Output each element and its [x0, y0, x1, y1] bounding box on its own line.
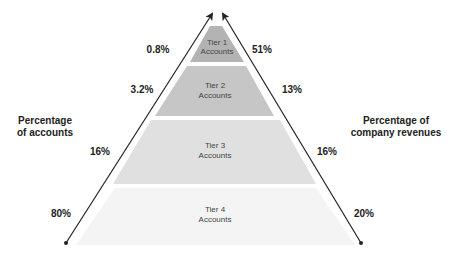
- tier-1-label: Tier 1: [207, 38, 228, 47]
- tier-4-accounts-pct: 80%: [51, 208, 71, 219]
- left-arrow-origin-dot: [64, 241, 68, 245]
- tier-3-accounts-pct: 16%: [90, 146, 110, 157]
- right-arrow-origin-dot: [359, 241, 363, 245]
- tier-2-sublabel: Accounts: [199, 91, 232, 100]
- tier-3-revenue-pct: 16%: [317, 146, 337, 157]
- tier-1-revenue-pct: 51%: [252, 44, 272, 55]
- tier-2-label: Tier 2: [205, 81, 226, 90]
- tier-4-sublabel: Accounts: [199, 215, 232, 224]
- left-axis-title-line1: Percentage: [18, 115, 72, 126]
- tier-1-accounts-pct: 0.8%: [147, 44, 170, 55]
- left-axis-title-line2: of accounts: [17, 127, 74, 138]
- tier-2-accounts-pct: 3.2%: [131, 84, 154, 95]
- right-axis-title-line1: Percentage of: [363, 115, 430, 126]
- tier-3-sublabel: Accounts: [199, 151, 232, 160]
- tier-2-revenue-pct: 13%: [282, 84, 302, 95]
- tier-1-sublabel: Accounts: [201, 47, 234, 56]
- tier-3-label: Tier 3: [205, 141, 226, 150]
- tier-4-label: Tier 4: [205, 205, 226, 214]
- account-tier-pyramid: Tier 1 Accounts Tier 2 Accounts Tier 3 A…: [0, 0, 462, 255]
- tier-4-revenue-pct: 20%: [354, 208, 374, 219]
- right-axis-title-line2: company revenues: [351, 127, 442, 138]
